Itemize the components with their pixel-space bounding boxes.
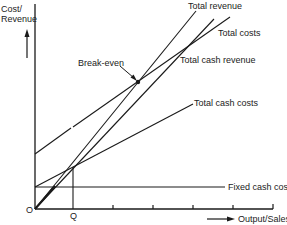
label-total-cash-costs: Total cash costs xyxy=(194,98,258,108)
x-axis-arrow-icon xyxy=(207,217,235,222)
label-total-revenue: Total revenue xyxy=(188,1,242,11)
total-cash-revenue-line xyxy=(35,19,214,209)
total-cash-costs-line xyxy=(35,104,193,187)
label-break-even: Break-even xyxy=(78,58,124,68)
origin-overlap-segment xyxy=(35,186,55,209)
x-axis-label: Output/Sales xyxy=(238,214,287,224)
break-even-arrow-icon xyxy=(120,66,137,81)
q-label: Q xyxy=(70,211,77,221)
label-fixed-cash-costs: Fixed cash costs xyxy=(228,182,287,192)
total-costs-line xyxy=(35,128,71,154)
y-axis-label: Cost/ Revenue xyxy=(1,4,37,24)
y-axis-label-line1: Cost/ xyxy=(1,4,37,14)
y-axis-arrow-icon xyxy=(25,29,30,58)
total-revenue-line xyxy=(35,11,196,209)
x-axis-ticks xyxy=(113,204,273,209)
label-total-costs: Total costs xyxy=(218,28,261,38)
y-axis-label-line2: Revenue xyxy=(1,14,37,24)
origin-label: O xyxy=(26,205,33,215)
label-total-cash-revenue: Total cash revenue xyxy=(180,55,256,65)
total-costs-line-cont xyxy=(73,17,230,127)
